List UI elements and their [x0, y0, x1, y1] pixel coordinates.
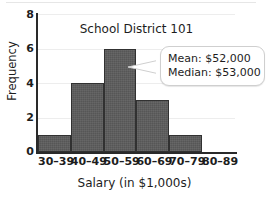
- x-tick-label-80-89: 80–89: [202, 156, 235, 168]
- bar-60-69: [136, 100, 169, 152]
- median-label: Median: $53,000: [168, 66, 258, 80]
- callout-pointer-icon: [128, 58, 164, 76]
- y-axis-title: Frequency: [5, 23, 19, 119]
- x-tick-label-40-49: 40–49: [71, 156, 104, 168]
- bar-40-49: [71, 83, 104, 152]
- mean-label: Mean: $52,000: [168, 52, 258, 66]
- x-axis-title: Salary (in $1,000s): [0, 176, 269, 190]
- statistics-callout: Mean: $52,000 Median: $53,000: [160, 46, 265, 86]
- x-tick-label-50-59: 50–59: [104, 156, 137, 168]
- x-axis-line: [36, 152, 237, 154]
- x-tick-label-70-79: 70–79: [169, 156, 202, 168]
- x-tick-label-30-39: 30–39: [38, 156, 71, 168]
- y-tick-label-8: 8: [6, 9, 34, 20]
- chart-title: School District 101: [38, 22, 235, 36]
- page-scan-line: [6, 2, 256, 3]
- bar-30-39: [38, 135, 71, 152]
- x-tick-label-60-69: 60–69: [136, 156, 169, 168]
- bar-70-79: [169, 135, 202, 152]
- histogram-figure: 8 6 4 2 0 Frequency 30–39 40–49 50–59 60…: [0, 0, 269, 200]
- y-tick-label-0: 0: [6, 146, 34, 157]
